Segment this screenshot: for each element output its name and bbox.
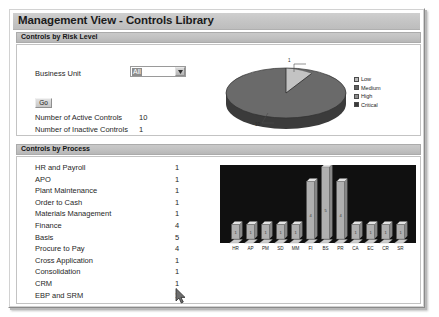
process-count: 1	[175, 175, 179, 184]
bar: 1	[397, 222, 408, 239]
process-name: Order to Cash	[35, 198, 82, 207]
section-header-process-label: Controls by Process	[21, 145, 90, 152]
bar-category-label: CR	[382, 246, 389, 251]
list-item[interactable]: Basis5	[17, 233, 207, 245]
list-item[interactable]: Consolidation1	[17, 267, 207, 279]
business-unit-selected-value: All	[132, 68, 142, 76]
legend-item: Low	[354, 75, 381, 83]
panel-controls-by-risk-level: Business Unit All Go Number of Active Co…	[16, 44, 421, 136]
business-unit-select[interactable]: All	[130, 66, 186, 77]
process-name: CRM	[35, 279, 52, 288]
bar-chart-svg: 1HR1AP1PM1SD1MM4FI5BS4PR1CA1EC1CR1SR	[220, 165, 416, 257]
active-controls-label: Number of Active Controls	[35, 113, 122, 122]
legend-label-low: Low	[361, 76, 371, 82]
bar: 4	[307, 178, 318, 239]
bar: 1	[292, 222, 303, 239]
process-count: 1	[175, 209, 179, 218]
process-name: Consolidation	[35, 267, 80, 276]
legend-label-critical: Critical	[361, 102, 378, 108]
bar-category-label: BS	[322, 246, 328, 251]
legend-label-high: High	[361, 93, 372, 99]
window-inner-frame: Management View - Controls Library Contr…	[9, 9, 424, 307]
legend-item: High	[354, 92, 381, 100]
bar: 1	[277, 222, 288, 239]
svg-text:1: 1	[288, 58, 291, 63]
bar-category-label: AP	[247, 246, 253, 251]
process-count: 1	[175, 163, 179, 172]
process-name: Procure to Pay	[35, 244, 85, 253]
svg-text:10: 10	[255, 122, 261, 127]
process-name: Cross Application	[35, 256, 93, 265]
bar: 4	[337, 178, 348, 239]
process-count: 4	[175, 244, 179, 253]
bar-category-label: EC	[367, 246, 374, 251]
application-window: Management View - Controls Library Contr…	[8, 8, 425, 308]
process-count: 1	[175, 186, 179, 195]
bar-category-label: HR	[232, 246, 239, 251]
go-button[interactable]: Go	[35, 98, 52, 108]
legend-label-medium: Medium	[361, 85, 381, 91]
section-header-risk-level-label: Controls by Risk Level	[21, 33, 98, 40]
process-name: HR and Payroll	[35, 163, 85, 172]
bar: 1	[232, 222, 243, 239]
process-name: Plant Maintenance	[35, 186, 97, 195]
section-header-risk-level: Controls by Risk Level	[16, 32, 421, 43]
window-titlebar: Management View - Controls Library	[13, 13, 420, 30]
bar: 1	[382, 222, 393, 239]
legend-swatch-critical	[354, 102, 359, 107]
list-item[interactable]: Order to Cash1	[17, 198, 207, 210]
active-controls-value: 10	[139, 113, 147, 122]
inactive-controls-label: Number of Inactive Controls	[35, 125, 128, 134]
page-title: Management View - Controls Library	[18, 14, 214, 26]
list-item[interactable]: Plant Maintenance1	[17, 186, 207, 198]
list-item[interactable]: APO1	[17, 175, 207, 187]
process-name: Basis	[35, 233, 53, 242]
inactive-controls-value: 1	[139, 125, 143, 134]
list-item[interactable]: Procure to Pay4	[17, 244, 207, 256]
process-count: 1	[175, 198, 179, 207]
legend-swatch-low	[354, 77, 359, 82]
process-count: 1	[175, 279, 179, 288]
process-name: APO	[35, 175, 51, 184]
bar-category-label: MM	[292, 246, 300, 251]
legend-item: Critical	[354, 101, 381, 109]
list-item[interactable]: Cross Application1	[17, 256, 207, 268]
list-item[interactable]: Finance4	[17, 221, 207, 233]
process-count: 4	[175, 221, 179, 230]
bar-category-label: CA	[352, 246, 359, 251]
pie-chart-svg: 1 10	[222, 47, 422, 135]
bar: 1	[247, 222, 258, 239]
chevron-down-icon[interactable]	[175, 67, 185, 76]
bar: 1	[367, 222, 378, 239]
legend-swatch-high	[354, 94, 359, 99]
legend-item: Medium	[354, 84, 381, 92]
list-item[interactable]: Materials Management1	[17, 209, 207, 221]
list-item[interactable]: HR and Payroll1	[17, 163, 207, 175]
process-count: 1	[175, 256, 179, 265]
section-header-process: Controls by Process	[16, 144, 421, 155]
business-unit-label: Business Unit	[35, 69, 81, 78]
legend-swatch-medium	[354, 85, 359, 90]
process-name: Finance	[35, 221, 62, 230]
panel-controls-by-process: HR and Payroll1APO1Plant Maintenance1Ord…	[16, 156, 421, 304]
bar-category-label: PM	[262, 246, 269, 251]
bar: 5	[322, 165, 333, 239]
bar-category-label: FI	[308, 246, 312, 251]
process-list: HR and Payroll1APO1Plant Maintenance1Ord…	[17, 157, 207, 302]
process-name: EBP and SRM	[35, 291, 83, 300]
bar-chart-process: 1HR1AP1PM1SD1MM4FI5BS4PR1CA1EC1CR1SR	[220, 165, 416, 257]
process-count: 5	[175, 233, 179, 242]
process-count: 1	[175, 267, 179, 276]
screenshot-root: Management View - Controls Library Contr…	[0, 0, 439, 317]
pie-chart-legend: Low Medium High Critical	[354, 75, 381, 109]
bar-category-label: SD	[277, 246, 284, 251]
process-name: Materials Management	[35, 209, 111, 218]
mouse-cursor-icon	[175, 288, 186, 304]
pie-chart-risk-level: 1 10 Low Medium	[222, 47, 422, 135]
bar-category-label: PR	[337, 246, 344, 251]
bar: 1	[352, 222, 363, 239]
bar: 1	[262, 222, 273, 239]
bar-category-label: SR	[397, 246, 404, 251]
